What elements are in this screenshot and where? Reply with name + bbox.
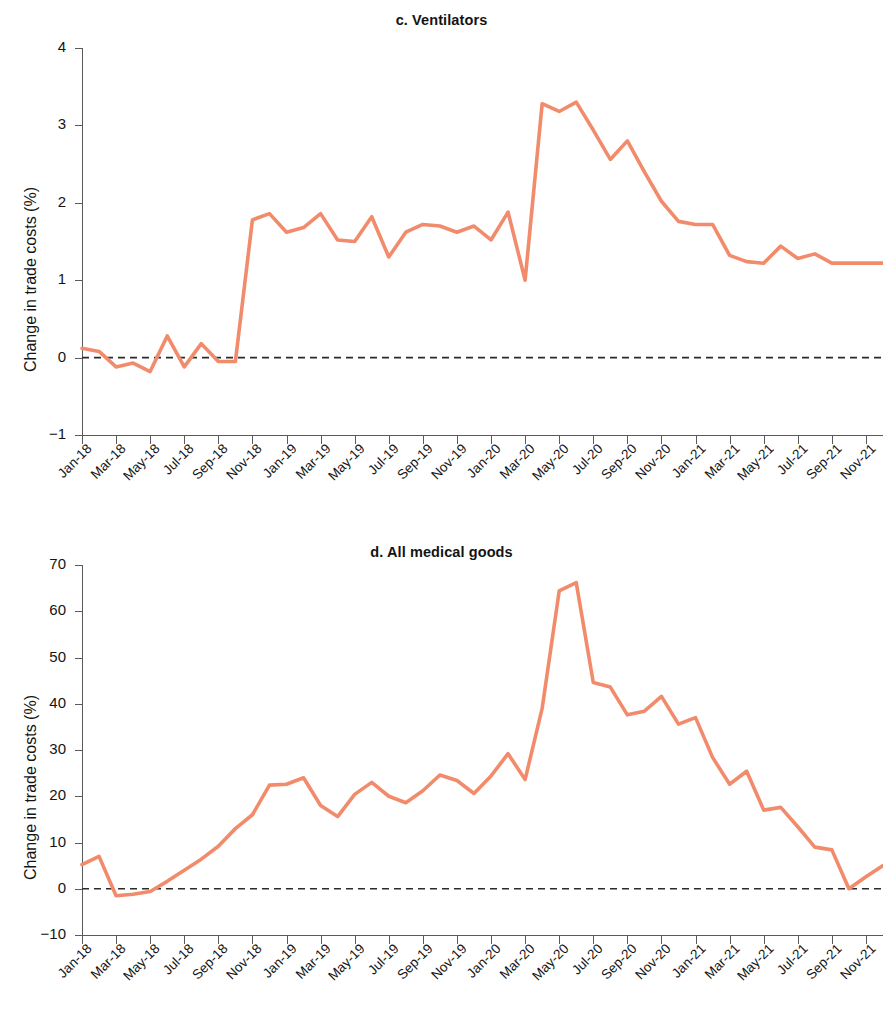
y-axis-tick-mark bbox=[75, 358, 82, 359]
y-axis-tick-mark bbox=[75, 48, 82, 49]
y-axis-tick-label: 30 bbox=[20, 740, 66, 757]
chart-panel-ventilators: c. Ventilators Change in trade costs (%)… bbox=[0, 0, 883, 535]
y-axis-tick-label: 60 bbox=[20, 601, 66, 618]
y-axis-tick-label: 20 bbox=[20, 786, 66, 803]
y-axis-tick-label: −10 bbox=[20, 925, 66, 942]
panel-d-plot-area: −10010203040506070 bbox=[82, 565, 883, 935]
panel-d-title: d. All medical goods bbox=[0, 544, 883, 560]
series-canvas bbox=[82, 565, 883, 935]
trade-cost-series-line bbox=[82, 583, 883, 896]
y-axis-tick-label: 4 bbox=[20, 38, 66, 55]
y-axis-tick-mark bbox=[75, 889, 82, 890]
y-axis-tick-label: 10 bbox=[20, 833, 66, 850]
y-axis-tick-mark bbox=[75, 658, 82, 659]
y-axis-tick-label: 40 bbox=[20, 694, 66, 711]
y-axis-tick-label: 70 bbox=[20, 555, 66, 572]
y-axis-tick-mark bbox=[75, 704, 82, 705]
y-axis-tick-mark bbox=[75, 435, 82, 436]
y-axis-tick-mark bbox=[75, 565, 82, 566]
y-axis-tick-label: 50 bbox=[20, 648, 66, 665]
panel-c-plot-area: −101234 bbox=[82, 48, 883, 435]
y-axis-tick-mark bbox=[75, 796, 82, 797]
y-axis-tick-label: 2 bbox=[20, 193, 66, 210]
y-axis-tick-mark bbox=[75, 125, 82, 126]
y-axis-tick-mark bbox=[75, 203, 82, 204]
y-axis-tick-label: −1 bbox=[20, 425, 66, 442]
y-axis-tick-label: 0 bbox=[20, 348, 66, 365]
y-axis-tick-label: 1 bbox=[20, 270, 66, 287]
y-axis-tick-label: 3 bbox=[20, 115, 66, 132]
y-axis-tick-label: 0 bbox=[20, 879, 66, 896]
y-axis-tick-mark bbox=[75, 935, 82, 936]
chart-panel-all-medical-goods: d. All medical goods Change in trade cos… bbox=[0, 535, 883, 1009]
y-axis-tick-mark bbox=[75, 280, 82, 281]
y-axis-tick-mark bbox=[75, 750, 82, 751]
series-canvas bbox=[82, 48, 883, 435]
y-axis-tick-mark bbox=[75, 611, 82, 612]
trade-cost-series-line bbox=[82, 102, 883, 371]
panel-c-title: c. Ventilators bbox=[0, 12, 883, 28]
y-axis-tick-mark bbox=[75, 843, 82, 844]
